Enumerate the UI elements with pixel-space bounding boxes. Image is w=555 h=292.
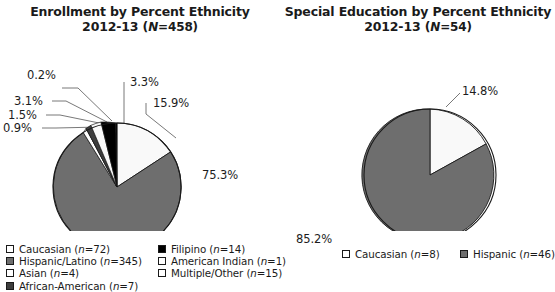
chart-title-line2: 2012-13 (N=458) [0, 19, 280, 35]
chart-panel-special-education: Special Education by Percent Ethnicity 2… [282, 0, 554, 290]
legend-swatch-icon-american-indian [158, 257, 166, 265]
legend-label-hispanic-latino: Hispanic/Latino (n=345) [19, 255, 142, 267]
legend-swatch-icon-multiple-other [158, 269, 166, 277]
legend-label-caucasian-sped: Caucasian (n=8) [355, 248, 440, 260]
pct-label-3_1: 3.1% [14, 94, 43, 108]
legend-column-a-right: Caucasian (n=8) [342, 248, 440, 260]
pct-label-0_9: 0.9% [3, 121, 32, 135]
pct-label-3_3: 3.3% [130, 75, 159, 89]
pct-label-0_2: 0.2% [27, 68, 56, 82]
pct-label-85_2: 85.2% [296, 232, 332, 246]
legend-item-asian[interactable]: Asian (n=4) [6, 267, 142, 279]
legend-item-hispanic-latino[interactable]: Hispanic/Latino (n=345) [6, 255, 142, 267]
chart-title-line1: Enrollment by Percent Ethnicity [30, 4, 250, 19]
legend-item-caucasian[interactable]: Caucasian (n=72) [6, 243, 142, 255]
legend-label-american-indian: American Indian (n=1) [171, 255, 286, 267]
pie-chart-special-education [282, 35, 554, 231]
legend-swatch-icon-asian [6, 269, 14, 277]
legend-item-multiple-other[interactable]: Multiple/Other (n=15) [158, 267, 286, 279]
legend-item-american-indian[interactable]: American Indian (n=1) [158, 255, 286, 267]
pie-chart-enrollment [0, 35, 280, 231]
chart-title-line2-right: 2012-13 (N=54) [282, 19, 554, 35]
legend-swatch-icon-hispanic-latino [6, 257, 14, 265]
n-italic: N [148, 20, 158, 34]
legend-column-a: Caucasian (n=72) Hispanic/Latino (n=345)… [6, 243, 142, 292]
legend-column-b-right: Hispanic (n=46) [460, 248, 555, 260]
legend-swatch-icon-caucasian-sped [342, 250, 350, 258]
legend-swatch-icon-caucasian [6, 245, 14, 253]
legend-label-african-american: African-American (n=7) [19, 280, 138, 292]
chart-panel-enrollment: Enrollment by Percent Ethnicity 2012-13 … [0, 0, 280, 290]
pct-label-15_9: 15.9% [153, 96, 189, 110]
legend-item-african-american[interactable]: African-American (n=7) [6, 280, 142, 292]
legend-swatch-icon-filipino [158, 245, 166, 253]
n-italic-right: N [430, 20, 440, 34]
legend-swatch-icon-african-american [6, 282, 14, 290]
pie-plot-special-education: 14.8% 85.2% [282, 35, 554, 231]
legend-label-asian: Asian (n=4) [19, 267, 79, 279]
legend-item-hispanic-sped[interactable]: Hispanic (n=46) [460, 248, 555, 260]
legend-label-filipino: Filipino (n=14) [171, 243, 245, 255]
legend-item-caucasian-sped[interactable]: Caucasian (n=8) [342, 248, 440, 260]
pct-label-14_8: 14.8% [462, 84, 498, 98]
pct-label-1_5: 1.5% [8, 108, 37, 122]
chart-title-special-education: Special Education by Percent Ethnicity 2… [282, 4, 554, 35]
legend-label-caucasian: Caucasian (n=72) [19, 243, 110, 255]
legend-column-b: Filipino (n=14) American Indian (n=1) Mu… [158, 243, 286, 280]
legend-label-multiple-other: Multiple/Other (n=15) [171, 267, 282, 279]
pct-label-75_3: 75.3% [202, 168, 238, 182]
legend-label-hispanic-sped: Hispanic (n=46) [473, 248, 555, 260]
leader-line-14_8 [446, 93, 460, 107]
chart-title-enrollment: Enrollment by Percent Ethnicity 2012-13 … [0, 4, 280, 35]
legend-item-filipino[interactable]: Filipino (n=14) [158, 243, 286, 255]
pie-plot-enrollment: 0.2% 3.1% 1.5% 0.9% 3.3% 15.9% 75.3% [0, 35, 280, 231]
legend-swatch-icon-hispanic-sped [460, 250, 468, 258]
chart-title-line1-right: Special Education by Percent Ethnicity [285, 4, 552, 19]
